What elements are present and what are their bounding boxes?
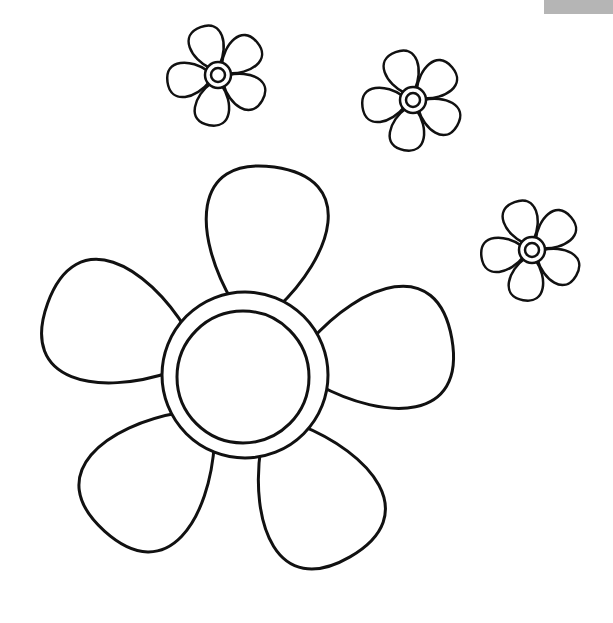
small-flower-3 <box>479 196 585 303</box>
large-flower <box>27 159 463 588</box>
small-flower-1 <box>165 21 271 128</box>
flower-drawing <box>0 0 613 623</box>
small-flower-2 <box>360 46 466 153</box>
